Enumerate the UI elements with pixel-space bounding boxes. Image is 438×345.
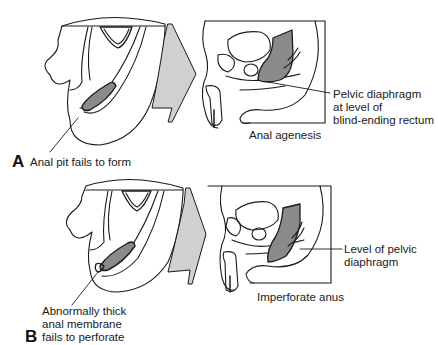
panel-a-embryo-label: Anal pit fails to form [30, 156, 131, 169]
panel-b-embryo [66, 179, 183, 305]
panel-b-result-caption: Imperforate anus [257, 291, 344, 304]
panel-b-annotation-line-1: Level of pelvic [344, 243, 417, 256]
panel-a-embryo [45, 17, 165, 152]
panel-a-annotation: Pelvic diaphragm at level of blind-endin… [333, 88, 434, 127]
panel-b-embryo-label-line-2: anal membrane [42, 318, 126, 331]
panel-b-result [208, 186, 342, 292]
panel-b-embryo-label-line-1: Abnormally thick [42, 305, 126, 318]
diagram-drawing [0, 0, 438, 345]
panel-a-annotation-line-1: Pelvic diaphragm [333, 88, 434, 101]
panel-b-annotation-line-2: diaphragm [344, 256, 417, 269]
panel-a-result [202, 21, 330, 128]
panel-a-result-caption: Anal agenesis [249, 129, 321, 142]
panel-b-annotation: Level of pelvic diaphragm [344, 243, 417, 269]
panel-a-annotation-line-3: blind-ending rectum [333, 114, 434, 127]
anorectal-malformation-figure: A Anal pit fails to form Anal agenesis P… [0, 0, 438, 345]
panel-b-embryo-label: Abnormally thick anal membrane fails to … [42, 305, 126, 344]
panel-b-embryo-label-line-3: fails to perforate [42, 331, 126, 344]
panel-b-letter: B [25, 327, 37, 345]
panel-a-annotation-line-2: at level of [333, 101, 434, 114]
panel-a-letter: A [12, 152, 24, 172]
